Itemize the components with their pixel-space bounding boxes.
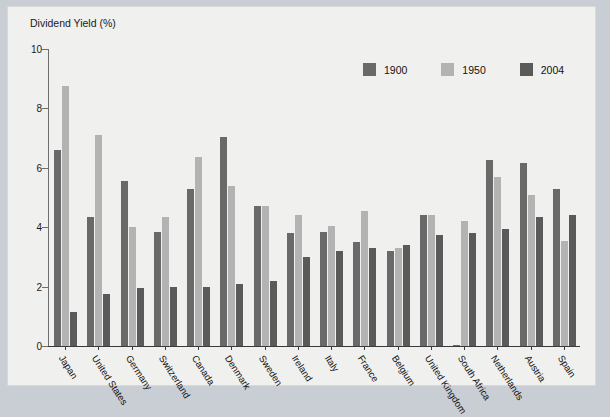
bar-group-united-states: United States (87, 49, 110, 346)
x-axis-label-germany: Germany (123, 353, 154, 392)
bar-ireland-2004[interactable] (303, 257, 310, 346)
y-axis-tick-labels: 0246810 (18, 49, 42, 347)
bar-netherlands-1950[interactable] (494, 177, 501, 346)
bar-switzerland-1900[interactable] (154, 232, 161, 346)
x-tick-sweden (265, 346, 266, 350)
x-tick-japan (65, 346, 66, 350)
bar-group-austria: Austria (520, 49, 543, 346)
bar-sweden-1950[interactable] (262, 206, 269, 346)
bar-group-denmark: Denmark (220, 49, 243, 346)
bar-denmark-2004[interactable] (236, 284, 243, 346)
bar-denmark-1900[interactable] (220, 137, 227, 346)
bar-germany-1950[interactable] (129, 227, 136, 346)
x-tick-germany (132, 346, 133, 350)
bar-group-canada: Canada (187, 49, 210, 346)
x-axis-label-ireland: Ireland (290, 353, 315, 383)
bar-sweden-1900[interactable] (254, 206, 261, 346)
plot-area: 0246810 JapanUnited StatesGermanySwitzer… (48, 49, 580, 347)
x-axis-label-spain: Spain (556, 353, 578, 379)
x-axis-label-sweden: Sweden (256, 353, 284, 388)
bar-france-1900[interactable] (353, 242, 360, 346)
bar-spain-2004[interactable] (569, 215, 576, 346)
bar-belgium-2004[interactable] (403, 245, 410, 346)
bar-group-united-kingdom: United Kingdom (420, 49, 443, 346)
bar-italy-1950[interactable] (328, 226, 335, 346)
x-tick-spain (564, 346, 565, 350)
bar-ireland-1950[interactable] (295, 215, 302, 346)
bar-spain-1900[interactable] (553, 189, 560, 346)
bar-germany-1900[interactable] (121, 181, 128, 346)
bar-canada-1950[interactable] (195, 157, 202, 346)
y-tick-label-8: 8 (20, 103, 42, 114)
bar-group-sweden: Sweden (254, 49, 277, 346)
bar-group-netherlands: Netherlands (486, 49, 509, 346)
x-axis-label-south-africa: South Africa (456, 353, 493, 402)
x-axis-line (48, 346, 580, 347)
y-tick-label-10: 10 (20, 44, 42, 55)
y-tick-label-4: 4 (20, 222, 42, 233)
y-tick-4 (42, 227, 48, 228)
x-axis-label-denmark: Denmark (223, 353, 253, 391)
bar-austria-2004[interactable] (536, 217, 543, 346)
bar-united-kingdom-2004[interactable] (436, 235, 443, 346)
y-tick-8 (42, 108, 48, 109)
bar-ireland-1900[interactable] (287, 233, 294, 346)
bar-south-africa-1950[interactable] (461, 221, 468, 346)
bar-group-belgium: Belgium (387, 49, 410, 346)
y-tick-label-2: 2 (20, 281, 42, 292)
bar-canada-2004[interactable] (203, 287, 210, 346)
bar-france-2004[interactable] (369, 248, 376, 346)
x-axis-label-switzerland: Switzerland (157, 353, 193, 400)
y-tick-2 (42, 287, 48, 288)
bar-united-states-1900[interactable] (87, 217, 94, 346)
bar-france-1950[interactable] (361, 211, 368, 346)
bar-japan-1950[interactable] (62, 86, 69, 346)
bar-switzerland-1950[interactable] (162, 217, 169, 346)
x-axis-label-japan: Japan (57, 353, 80, 381)
bar-austria-1900[interactable] (520, 163, 527, 346)
x-tick-france (364, 346, 365, 350)
y-tick-6 (42, 168, 48, 169)
bar-united-states-1950[interactable] (95, 135, 102, 346)
bar-japan-2004[interactable] (70, 312, 77, 346)
x-axis-label-canada: Canada (190, 353, 217, 387)
bar-germany-2004[interactable] (137, 288, 144, 346)
x-tick-united-kingdom (431, 346, 432, 350)
bar-austria-1950[interactable] (528, 195, 535, 346)
bar-denmark-1950[interactable] (228, 186, 235, 346)
bar-united-kingdom-1950[interactable] (428, 215, 435, 346)
y-tick-label-0: 0 (20, 341, 42, 352)
bar-japan-1900[interactable] (54, 150, 61, 346)
bar-south-africa-2004[interactable] (469, 233, 476, 346)
bar-group-spain: Spain (553, 49, 576, 346)
y-tick-10 (42, 49, 48, 50)
bar-group-france: France (353, 49, 376, 346)
bar-south-africa-1900[interactable] (453, 345, 460, 346)
bar-canada-1900[interactable] (187, 189, 194, 346)
bar-united-kingdom-1900[interactable] (420, 215, 427, 346)
x-tick-united-states (98, 346, 99, 350)
bar-group-germany: Germany (121, 49, 144, 346)
bar-netherlands-2004[interactable] (502, 229, 509, 346)
bar-group-switzerland: Switzerland (154, 49, 177, 346)
bar-spain-1950[interactable] (561, 241, 568, 346)
bar-group-japan: Japan (54, 49, 77, 346)
x-tick-ireland (298, 346, 299, 350)
x-tick-belgium (398, 346, 399, 350)
bar-netherlands-1900[interactable] (486, 160, 493, 346)
x-tick-denmark (231, 346, 232, 350)
y-axis-line (48, 49, 49, 347)
x-tick-canada (198, 346, 199, 350)
bar-sweden-2004[interactable] (270, 281, 277, 346)
bar-italy-2004[interactable] (336, 251, 343, 346)
bar-group-ireland: Ireland (287, 49, 310, 346)
bar-belgium-1900[interactable] (387, 251, 394, 346)
bar-switzerland-2004[interactable] (170, 287, 177, 346)
x-axis-label-france: France (356, 353, 381, 384)
x-tick-south-africa (464, 346, 465, 350)
bar-united-states-2004[interactable] (103, 294, 110, 346)
y-axis-title: Dividend Yield (%) (30, 17, 116, 29)
y-tick-0 (42, 346, 48, 347)
bar-belgium-1950[interactable] (395, 248, 402, 346)
bar-italy-1900[interactable] (320, 232, 327, 346)
